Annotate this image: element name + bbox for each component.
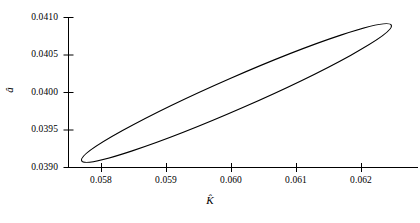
x-tick-label-0.058: 0.058: [79, 175, 123, 185]
data-curve-confidence-ellipse: [75, 11, 397, 175]
y-axis-title: â: [3, 87, 15, 93]
y-tick-label-0.0405: 0.0405: [16, 49, 58, 59]
x-axis-title: K̂: [0, 194, 420, 206]
x-tick-label-0.059: 0.059: [144, 175, 188, 185]
x-tick-label-0.062: 0.062: [339, 175, 383, 185]
plot-canvas: [0, 0, 420, 223]
y-tick-label-0.0410: 0.0410: [16, 12, 58, 22]
y-tick-label-0.0395: 0.0395: [16, 124, 58, 134]
x-tick-label-0.060: 0.060: [209, 175, 253, 185]
y-tick-label-0.0390: 0.0390: [16, 162, 58, 172]
x-tick-label-0.061: 0.061: [274, 175, 318, 185]
figure-container: 0.0410 0.0405 0.0400 0.0395 0.0390 0.058…: [0, 0, 420, 223]
y-tick-label-0.0400: 0.0400: [16, 87, 58, 97]
